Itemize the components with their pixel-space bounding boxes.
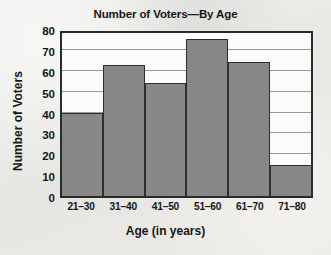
bar-51–60: [186, 39, 228, 196]
x-tick-label: 61–70: [229, 201, 271, 212]
bar-chart: Number of Voters—By Age Number of Voters…: [0, 0, 331, 255]
y-tick-label: 10: [42, 171, 55, 183]
x-tick-label: 31–40: [102, 201, 144, 212]
y-tick-label: 20: [42, 150, 55, 162]
bar-61–70: [228, 62, 270, 196]
y-axis-label: Number of Voters: [11, 41, 25, 201]
bar-31–40: [103, 65, 145, 197]
y-tick-label: 60: [42, 67, 55, 79]
x-axis-tick-labels: 21–3031–4041–5051–6061–7071–80: [60, 201, 313, 212]
chart-title: Number of Voters—By Age: [0, 8, 331, 20]
y-tick-label: 40: [42, 109, 55, 121]
bar-71–80: [270, 165, 311, 196]
y-tick-label: 30: [42, 129, 55, 141]
y-tick-label: 80: [42, 25, 55, 37]
x-tick-label: 71–80: [271, 201, 313, 212]
x-axis-label: Age (in years): [0, 224, 331, 238]
bar-41–50: [145, 83, 187, 196]
x-tick-label: 21–30: [60, 201, 102, 212]
y-tick-label: 70: [42, 46, 55, 58]
x-tick-label: 41–50: [144, 201, 186, 212]
y-tick-label: 50: [42, 88, 55, 100]
x-tick-label: 51–60: [187, 201, 229, 212]
bar-21–30: [62, 113, 103, 197]
y-axis-tick-labels: 01020304050607080: [0, 0, 60, 255]
plot-area: [60, 31, 313, 198]
bar-series: [62, 33, 311, 196]
y-tick-label: 0: [49, 192, 55, 204]
